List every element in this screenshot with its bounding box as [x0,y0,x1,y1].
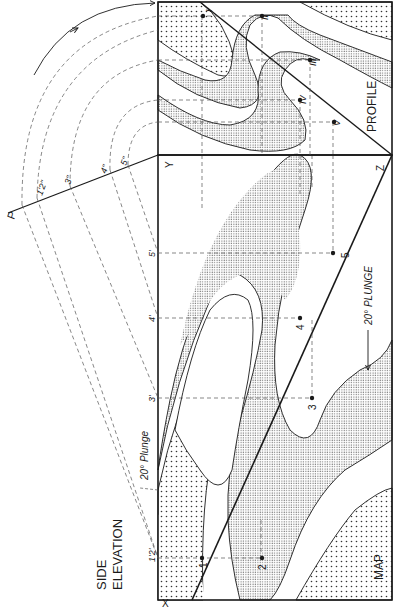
profile-panel: I II III IV V PROFILE Y [158,2,392,168]
side-elevation: 1'2" 3" 4" 5" P 1'2' 3' 4' 5' 20° Plunge… [5,3,158,590]
side-label-line1: SIDE [94,559,109,590]
elev-point-12: 1'2' [147,548,157,562]
map-panel: 1 2 3 4 5 20° PLUNGE MAP X Z [158,154,392,609]
arc-point-12: 1'2" [34,178,49,196]
elevation-plunge-label: 20° Plunge [139,431,150,481]
arc-point-5: 5" [118,155,130,167]
elev-point-4: 4' [147,315,157,322]
plunge-angle-line [140,488,158,490]
arc-point-4: 4" [98,163,110,175]
profile-unit-coarse [158,2,236,76]
profile-point-iii: III [308,58,318,66]
rotation-arcs [22,16,158,205]
corner-y: Y [164,161,175,168]
side-label-line2: ELEVATION [110,519,125,590]
geologic-fold-diagram: 1 2 3 4 5 20° PLUNGE MAP X Z [0,0,399,609]
elevation-line-py [8,155,158,213]
elev-point-3: 3' [147,395,157,402]
elev-point-5: 5' [147,250,157,257]
corner-z: Z [375,165,386,171]
plunge-arrow-label: 20° PLUNGE [363,266,374,326]
profile-label: PROFILE [365,81,379,132]
map-label: MAP [372,554,386,580]
projection-diagonals [22,165,158,558]
point-p: P [5,210,19,221]
corner-x: X [162,598,169,609]
map-point-3: 3 [307,404,318,410]
map-point-4: 4 [295,324,306,330]
profile-point-ii: II [260,14,270,20]
map-point-5: 5 [340,252,351,258]
profile-point-v: V [332,119,342,126]
map-point-1: 1 [198,562,209,568]
arc-point-3: 3" [62,174,74,186]
profile-point-iv: IV [298,94,308,104]
map-point-2: 2 [257,564,268,570]
